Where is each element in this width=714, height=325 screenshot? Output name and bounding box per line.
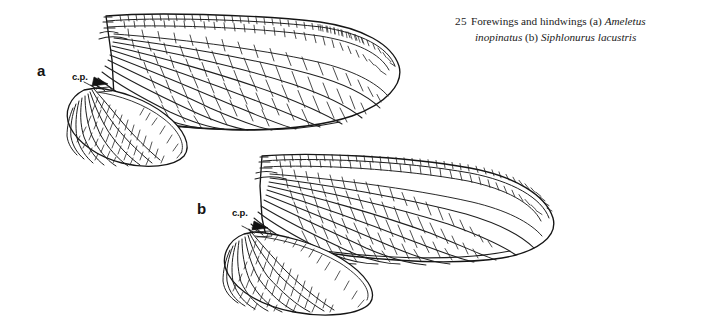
panel-label-a: a <box>37 62 45 79</box>
caption-genus-a: Ameletus <box>605 15 646 27</box>
caption-text-2: (b) <box>522 31 541 43</box>
cp-annotation-b: c.p. <box>232 207 248 218</box>
caption-species-a: inopinatus <box>475 31 522 43</box>
wing-illustration-plate <box>0 0 714 325</box>
cp-annotation-a: c.p. <box>72 71 88 82</box>
figure-caption: 25Forewings and hindwings (a) Ameletus i… <box>455 14 660 45</box>
figure-number: 25 <box>455 15 467 27</box>
caption-species-b: Siphlonurus lacustris <box>541 31 636 43</box>
caption-text-1: Forewings and hindwings (a) <box>471 15 605 27</box>
panel-label-b: b <box>197 200 206 217</box>
